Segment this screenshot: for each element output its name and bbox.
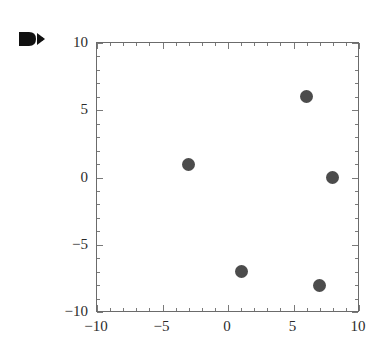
x-axis-tick-label: 5 bbox=[289, 318, 297, 335]
y-axis-tick bbox=[97, 97, 100, 98]
y-axis-tick bbox=[97, 285, 100, 286]
x-axis-tick bbox=[149, 308, 150, 311]
x-axis-tick-top bbox=[359, 43, 360, 49]
y-axis-tick bbox=[97, 312, 103, 313]
x-axis-tick-top bbox=[123, 43, 124, 46]
x-axis-tick-top bbox=[241, 43, 242, 46]
x-axis-tick bbox=[359, 305, 360, 311]
y-axis-tick-right bbox=[355, 231, 358, 232]
y-axis-tick bbox=[97, 83, 100, 84]
x-axis-tick-top bbox=[176, 43, 177, 46]
y-axis-tick bbox=[97, 178, 103, 179]
y-axis-tick bbox=[97, 245, 103, 246]
x-axis-tick bbox=[267, 308, 268, 311]
y-axis-tick-label: 10 bbox=[48, 34, 88, 51]
x-axis-tick-top bbox=[280, 43, 281, 46]
x-axis-tick-top bbox=[294, 43, 295, 49]
x-axis-tick-top bbox=[202, 43, 203, 46]
x-axis-tick-label: 10 bbox=[351, 318, 366, 335]
y-axis-tick bbox=[97, 231, 100, 232]
y-axis-tick-right bbox=[355, 285, 358, 286]
x-axis-tick-top bbox=[149, 43, 150, 46]
x-axis-tick-top bbox=[110, 43, 111, 46]
x-axis-tick bbox=[136, 308, 137, 311]
scatter-plot-page: −10−50510−10−50510 bbox=[0, 0, 383, 353]
y-axis-tick bbox=[97, 258, 100, 259]
data-point bbox=[182, 158, 195, 171]
plot-area bbox=[97, 43, 358, 311]
y-axis-tick bbox=[97, 299, 100, 300]
x-axis-tick-top bbox=[228, 43, 229, 49]
y-axis-tick-right bbox=[355, 272, 358, 273]
x-axis-tick-label: 0 bbox=[223, 318, 231, 335]
y-axis-tick-right bbox=[355, 151, 358, 152]
y-axis-tick-right bbox=[355, 70, 358, 71]
y-axis-tick bbox=[97, 272, 100, 273]
y-axis-tick-right bbox=[352, 312, 358, 313]
data-point bbox=[313, 279, 326, 292]
x-axis-tick bbox=[215, 308, 216, 311]
y-axis-tick-right bbox=[355, 137, 358, 138]
y-axis-tick-right bbox=[352, 245, 358, 246]
x-axis-tick-label: −5 bbox=[154, 318, 170, 335]
x-axis-tick bbox=[346, 308, 347, 311]
x-axis-tick bbox=[97, 305, 98, 311]
x-axis-tick-top bbox=[307, 43, 308, 46]
double-arrow-marker-icon bbox=[18, 30, 48, 48]
data-point bbox=[235, 265, 248, 278]
y-axis-tick bbox=[97, 151, 100, 152]
x-axis-tick bbox=[241, 308, 242, 311]
x-axis-tick bbox=[228, 305, 229, 311]
y-axis-tick-right bbox=[355, 56, 358, 57]
x-axis-tick-label: −10 bbox=[84, 318, 107, 335]
x-axis-tick bbox=[202, 308, 203, 311]
x-axis-tick bbox=[280, 308, 281, 311]
y-axis-tick-right bbox=[352, 43, 358, 44]
y-axis-tick-label: −5 bbox=[48, 235, 88, 252]
y-axis-tick bbox=[97, 70, 100, 71]
y-axis-tick-right bbox=[355, 164, 358, 165]
y-axis-tick-right bbox=[355, 191, 358, 192]
x-axis-tick bbox=[307, 308, 308, 311]
y-axis-tick bbox=[97, 43, 103, 44]
x-axis-tick-top bbox=[267, 43, 268, 46]
x-axis-tick-top bbox=[346, 43, 347, 46]
scan-artifact-text bbox=[0, 0, 383, 11]
x-axis-tick bbox=[123, 308, 124, 311]
y-axis-tick-label: 5 bbox=[48, 101, 88, 118]
x-axis-tick-top bbox=[189, 43, 190, 46]
y-axis-tick-right bbox=[355, 83, 358, 84]
plot-frame bbox=[96, 42, 359, 312]
y-axis-tick-right bbox=[355, 204, 358, 205]
x-axis-tick-top bbox=[320, 43, 321, 46]
x-axis-tick bbox=[294, 305, 295, 311]
x-axis-tick-top bbox=[136, 43, 137, 46]
x-axis-tick bbox=[110, 308, 111, 311]
x-axis-tick-top bbox=[215, 43, 216, 46]
y-axis-tick bbox=[97, 164, 100, 165]
y-axis-tick-right bbox=[355, 218, 358, 219]
y-axis-tick bbox=[97, 56, 100, 57]
data-point bbox=[326, 171, 339, 184]
y-axis-tick-right bbox=[352, 110, 358, 111]
y-axis-tick-right bbox=[355, 299, 358, 300]
y-axis-tick-right bbox=[355, 258, 358, 259]
y-axis-tick bbox=[97, 191, 100, 192]
y-axis-tick-right bbox=[355, 97, 358, 98]
y-axis-tick-right bbox=[352, 178, 358, 179]
x-axis-tick-top bbox=[163, 43, 164, 49]
y-axis-tick-right bbox=[355, 124, 358, 125]
y-axis-tick bbox=[97, 124, 100, 125]
x-axis-tick bbox=[176, 308, 177, 311]
y-axis-tick-label: −10 bbox=[48, 303, 88, 320]
y-axis-tick bbox=[97, 218, 100, 219]
x-axis-tick-top bbox=[333, 43, 334, 46]
y-axis-tick bbox=[97, 110, 103, 111]
data-point bbox=[300, 90, 313, 103]
x-axis-tick bbox=[320, 308, 321, 311]
y-axis-tick bbox=[97, 137, 100, 138]
y-axis-tick-label: 0 bbox=[48, 168, 88, 185]
x-axis-tick bbox=[254, 308, 255, 311]
x-axis-tick bbox=[163, 305, 164, 311]
y-axis-tick bbox=[97, 204, 100, 205]
